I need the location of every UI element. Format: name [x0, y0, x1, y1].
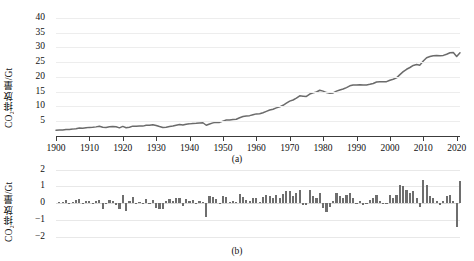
panel-a-x-tick-label: 1970: [280, 142, 299, 154]
panel-b-bar: [419, 203, 421, 206]
panel-b-bar: [329, 203, 331, 206]
panel-b-bar: [195, 203, 197, 204]
panel-a-plot-area: [56, 12, 460, 136]
panel-b-gridline: [56, 220, 460, 221]
panel-b-bar: [162, 203, 164, 209]
panel-b-bar: [452, 201, 454, 203]
panel-a-x-tick-marks: [56, 137, 460, 141]
panel-b-bar: [125, 203, 127, 210]
panel-a-x-tick-mark: [390, 137, 391, 141]
panel-b-bar: [82, 203, 84, 204]
panel-b-y-tick: −2: [23, 232, 45, 242]
panel-a-x-tick-label: 1910: [80, 142, 99, 154]
panel-a-y-tick: 25: [23, 57, 45, 67]
panel-a-y-tick: 40: [23, 13, 45, 23]
panel-b-bar: [222, 196, 224, 203]
panel-b-bar: [392, 198, 394, 203]
panel-b-bar: [436, 201, 438, 203]
panel-b-bar: [345, 195, 347, 203]
panel-b-bar: [172, 201, 174, 204]
panel-a-x-tick-mark: [190, 137, 191, 141]
panel-b-y-tick: −1: [23, 215, 45, 225]
panel-b-caption: (b): [0, 246, 474, 256]
panel-b-bar: [342, 198, 344, 203]
panel-b-bar: [362, 203, 364, 205]
panel-b-bar: [432, 198, 434, 203]
panel-b-bar: [459, 181, 461, 203]
panel-b-bar: [135, 203, 137, 204]
panel-a-line-chart: CO₂排放量/Gt 510152025303540 19001910192019…: [0, 0, 474, 168]
panel-b-bar: [142, 203, 144, 204]
panel-b-bar: [229, 202, 231, 203]
panel-a-x-tick-label: 1930: [147, 142, 166, 154]
panel-b-bar: [335, 193, 337, 203]
panel-a-y-tick: 5: [23, 116, 45, 126]
panel-b-bar: [115, 203, 117, 205]
panel-a-x-tick-label: 1980: [314, 142, 333, 154]
panel-b-bar: [382, 203, 384, 204]
panel-b-bar: [145, 199, 147, 203]
panel-b-bar: [158, 203, 160, 209]
panel-b-bar: [208, 196, 210, 203]
panel-a-y-axis-label: CO₂排放量/Gt: [2, 24, 16, 128]
panel-b-bar: [215, 199, 217, 203]
panel-b-bar: [279, 198, 281, 204]
panel-a-y-tick: 30: [23, 42, 45, 52]
panel-a-x-tick-mark: [223, 137, 224, 141]
panel-b-bar: [92, 203, 94, 204]
panel-b-bar: [399, 185, 401, 203]
panel-a-x-tick-label: 1990: [347, 142, 366, 154]
panel-a-x-tick-mark: [123, 137, 124, 141]
panel-b-bar: [65, 200, 67, 203]
panel-b-y-axis-label: CO₂排放量/Gt: [2, 168, 16, 242]
panel-b-bar: [165, 201, 167, 203]
panel-b-bar: [185, 199, 187, 204]
panel-b-bar: [312, 196, 314, 203]
panel-b-bar: [412, 191, 414, 203]
panel-b-bar: [319, 193, 321, 203]
panel-b-bar: [122, 195, 124, 203]
panel-b-bar: [112, 201, 114, 204]
panel-b-plot-area: [56, 168, 460, 240]
panel-b-bar: [385, 203, 387, 204]
panel-b-y-tick: 0: [23, 198, 45, 208]
panel-b-bar: [409, 193, 411, 203]
panel-b-bar: [325, 203, 327, 211]
panel-a-x-tick-mark: [357, 137, 358, 141]
panel-b-bar: [128, 201, 130, 204]
panel-b-bar: [265, 195, 267, 203]
panel-b-bar: [62, 202, 64, 203]
panel-a-x-tick-label: 1950: [213, 142, 232, 154]
panel-a-y-tick-labels: 510152025303540: [23, 0, 45, 136]
panel-b-bar: [285, 191, 287, 203]
panel-b-bar: [309, 190, 311, 203]
panel-b-bar: [369, 200, 371, 203]
panel-a-gridline: [56, 77, 460, 78]
panel-b-bar: [389, 195, 391, 203]
panel-b-bar: [175, 198, 177, 203]
panel-b-bar: [68, 203, 70, 204]
panel-b-bar: [315, 198, 317, 203]
panel-b-bar: [132, 197, 134, 203]
panel-a-gridline: [56, 62, 460, 63]
panel-b-bar: [219, 203, 221, 204]
panel-b-bar: [105, 203, 107, 204]
panel-b-bar: [365, 203, 367, 204]
panel-b-bar: [339, 196, 341, 203]
panel-b-bar: [395, 195, 397, 203]
panel-b-bar: [442, 201, 444, 203]
panel-a-x-tick-label: 1960: [247, 142, 266, 154]
panel-b-bar: [402, 186, 404, 203]
panel-a-x-tick-label: 2020: [447, 142, 466, 154]
panel-b-gridline: [56, 170, 460, 171]
panel-b-bar: [138, 202, 140, 203]
panel-a-x-tick-mark: [323, 137, 324, 141]
panel-b-bar: [188, 201, 190, 203]
panel-b-bar: [272, 198, 274, 203]
panel-b-bar: [102, 203, 104, 209]
figure-container: CO₂排放量/Gt 510152025303540 19001910192019…: [0, 0, 474, 261]
panel-b-bar: [239, 194, 241, 203]
panel-b-bar: [416, 198, 418, 203]
panel-b-y-tick-labels: 210−1−2: [23, 160, 45, 228]
panel-a-emissions-line: [56, 12, 460, 136]
